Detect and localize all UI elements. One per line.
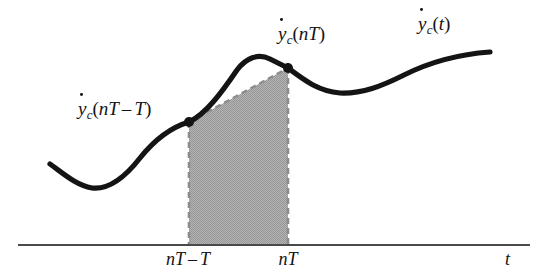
close-paren: ) xyxy=(319,23,325,44)
arg-n: n xyxy=(99,98,109,119)
close-paren: ) xyxy=(444,13,450,34)
arg-T: T xyxy=(308,23,319,44)
tick-label-nt-minus-t: nT–T xyxy=(166,250,210,268)
sample-marker-nt-minus-t xyxy=(184,117,194,127)
figure-canvas xyxy=(0,0,545,271)
y-dot-variable: y xyxy=(418,14,426,33)
figure-root: yc(nT–T) yc(nT) yc(t) nT–T nT t xyxy=(0,0,545,271)
label-sample-nt-minus-t: yc(nT–T) xyxy=(78,99,151,122)
overdot-icon xyxy=(80,93,83,96)
label-sample-nt: yc(nT) xyxy=(278,24,325,47)
tick-n: n xyxy=(166,249,175,269)
arg-T2: T xyxy=(134,98,145,119)
tick-n: n xyxy=(278,249,287,269)
tick-T: T xyxy=(287,249,297,269)
arg-n: n xyxy=(299,23,309,44)
tick-T: T xyxy=(175,249,185,269)
tick-label-nt: nT xyxy=(278,250,297,268)
tick-T2: T xyxy=(200,249,210,269)
y-glyph: y xyxy=(278,23,286,44)
y-glyph: y xyxy=(78,98,86,119)
axis-label-t: t xyxy=(505,250,510,268)
overdot-icon xyxy=(420,8,423,11)
trapezoid-shaded-area xyxy=(189,68,288,245)
overdot-icon xyxy=(280,18,283,21)
y-dot-variable: y xyxy=(278,24,286,43)
close-paren: ) xyxy=(145,98,151,119)
y-dot-variable: y xyxy=(78,99,86,118)
sample-marker-nt xyxy=(283,63,293,73)
y-glyph: y xyxy=(418,13,426,34)
label-signal-curve: yc(t) xyxy=(418,14,450,37)
tick-minus: – xyxy=(188,249,197,269)
minus-sign: – xyxy=(122,98,132,119)
arg-T: T xyxy=(108,98,119,119)
